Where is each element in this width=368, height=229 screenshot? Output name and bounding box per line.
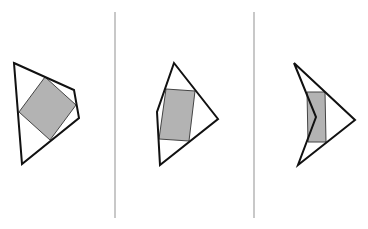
diagram-canvas [0,0,368,229]
panel-1 [14,63,79,164]
panel-2-inscribed-rectangle [159,89,195,141]
panel-3 [294,63,355,165]
panel-2 [157,63,218,165]
